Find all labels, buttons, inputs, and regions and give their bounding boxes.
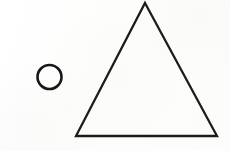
shapes-svg <box>0 0 230 151</box>
triangle-shape <box>76 3 217 136</box>
circle-shape <box>38 65 62 89</box>
drawing-canvas <box>0 0 230 151</box>
